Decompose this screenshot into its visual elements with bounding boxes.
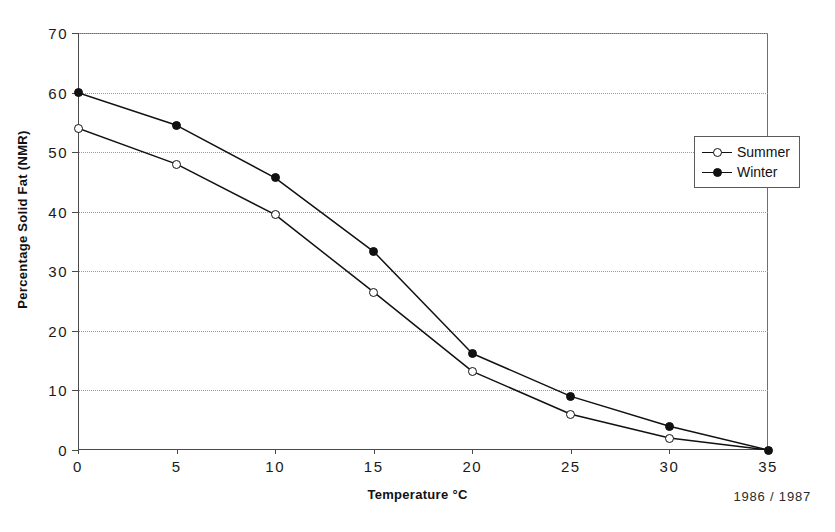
data-point-summer-0 [74,124,83,133]
x-tick-label: 20 [462,458,482,475]
legend-item-winter: Winter [702,162,790,182]
y-tick-label: 60 [48,84,68,101]
y-tick-label: 30 [48,263,68,280]
y-tick-label: 20 [48,322,68,339]
chart-legend: Summer Winter [694,136,800,188]
solid-fat-line-chart: Summer Winter 010203040506070 0510152025… [0,0,835,532]
legend-label-winter: Winter [737,164,777,180]
y-tick-label: 40 [48,203,68,220]
data-point-winter-0 [74,88,83,97]
data-point-winter-10 [271,173,280,182]
data-point-summer-5 [172,160,181,169]
y-axis-tick-labels: 010203040506070 [24,33,68,450]
data-point-summer-20 [468,367,477,376]
filled-circle-icon [702,166,732,178]
series-lines [78,33,768,450]
data-point-winter-30 [665,422,674,431]
y-tick-label: 50 [48,144,68,161]
legend-item-summer: Summer [702,142,790,162]
series-line-summer [78,128,768,450]
open-circle-icon [702,146,732,158]
data-point-summer-30 [665,434,674,443]
x-axis-tick-labels: 05101520253035 [78,458,768,480]
x-tick-label: 10 [265,458,285,475]
x-tick-label: 30 [660,458,680,475]
series-line-winter [78,93,768,450]
y-axis-title: Percentage Solid Fat (NMR) [15,30,30,410]
x-tick-label: 35 [758,458,778,475]
x-tick-label: 25 [561,458,581,475]
x-axis-title: Temperature °C [0,487,835,502]
data-point-winter-20 [468,349,477,358]
x-tick-label: 5 [172,458,182,475]
data-point-summer-15 [369,288,378,297]
data-point-summer-10 [271,210,280,219]
plot-area: Summer Winter [78,33,768,450]
data-point-winter-35 [764,446,773,455]
x-tick-label: 15 [364,458,384,475]
footer-note: 1986 / 1987 [734,489,811,504]
data-point-winter-5 [172,121,181,130]
y-tick-label: 0 [58,442,68,459]
y-tick-label: 70 [48,25,68,42]
legend-label-summer: Summer [737,144,790,160]
x-tick-label: 0 [73,458,83,475]
y-tick-label: 10 [48,382,68,399]
